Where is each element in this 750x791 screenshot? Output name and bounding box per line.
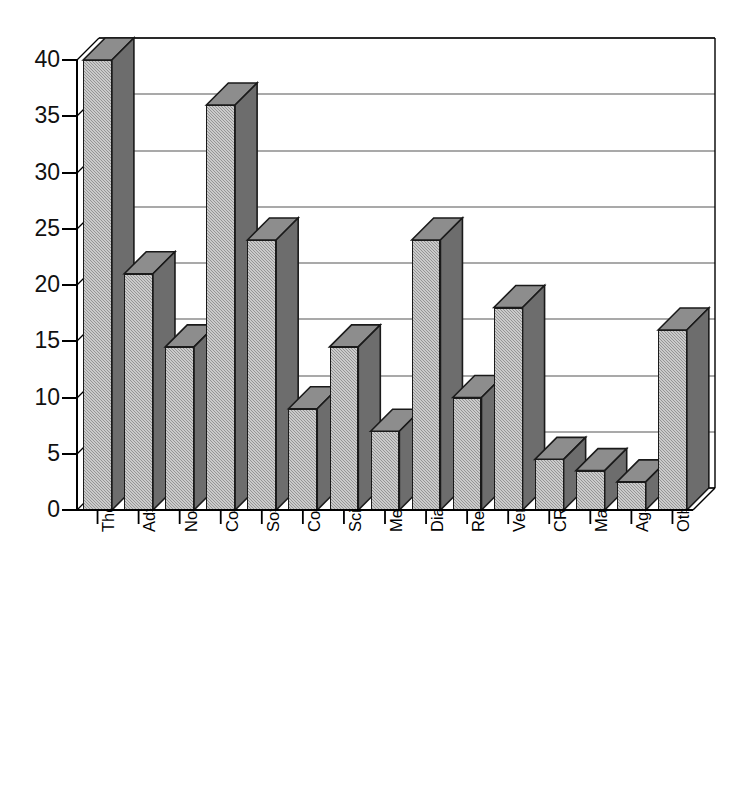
bar[interactable] <box>494 308 523 511</box>
bar[interactable] <box>412 240 441 510</box>
bar[interactable] <box>247 240 276 510</box>
bar[interactable] <box>124 274 153 510</box>
bar[interactable] <box>453 398 482 511</box>
bar-top-face <box>330 325 381 347</box>
bar[interactable] <box>165 347 194 510</box>
bar-top-face <box>494 286 545 308</box>
bar[interactable] <box>371 431 400 510</box>
bar[interactable] <box>330 347 359 510</box>
bar[interactable] <box>535 459 564 510</box>
bar-series <box>0 0 750 791</box>
bar[interactable] <box>206 105 235 510</box>
bar-top-face <box>658 308 709 330</box>
bar-top-face <box>535 437 586 459</box>
bar-top-face <box>247 218 298 240</box>
bar-chart: 4035302520151050 <box>0 0 750 791</box>
bar-top-face <box>124 252 175 274</box>
bar[interactable] <box>658 330 687 510</box>
bar-top-face <box>83 38 134 60</box>
bar-top-face <box>412 218 463 240</box>
bar[interactable] <box>617 482 646 510</box>
bar-side-face <box>687 308 709 510</box>
bar-top-face <box>576 449 627 471</box>
bar[interactable] <box>83 60 112 510</box>
bar[interactable] <box>288 409 317 510</box>
bar-top-face <box>206 83 257 105</box>
bar[interactable] <box>576 471 605 510</box>
